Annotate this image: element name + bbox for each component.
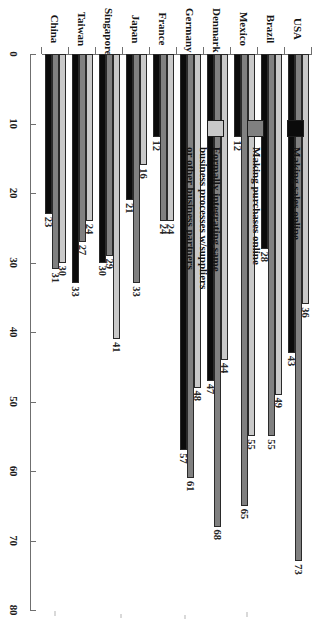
bar-japan-series-0 <box>126 54 133 200</box>
category-axis-tick <box>122 47 123 54</box>
legend-entry-0: Making sales online <box>287 120 304 240</box>
bar-singapore-series-2 <box>113 54 120 339</box>
bar-value-label: 30 <box>97 266 108 277</box>
category-label-mexico: Mexico <box>239 8 251 50</box>
value-axis-tick <box>30 124 36 125</box>
value-axis-tick <box>30 54 36 55</box>
legend-label: Making purchases online <box>250 147 264 265</box>
value-axis-tick <box>30 471 36 472</box>
bar-value-label: 61 <box>185 481 196 492</box>
bar-brazil-series-2 <box>275 54 282 395</box>
value-axis-tick-label: 10 <box>8 118 20 129</box>
value-axis-tick-label: 0 <box>8 51 20 56</box>
scan-speckle <box>246 612 248 617</box>
category-axis-tick <box>230 47 231 54</box>
bar-china-series-2 <box>59 54 66 263</box>
bar-france-series-0 <box>153 54 160 137</box>
bar-value-label: 43 <box>286 356 297 367</box>
bar-value-label: 31 <box>50 272 61 283</box>
scan-speckle <box>120 614 122 618</box>
bar-china-series-0 <box>45 54 52 214</box>
category-label-denmark: Denmark <box>212 8 224 50</box>
value-axis-tick <box>30 193 36 194</box>
value-axis-tick-label: 60 <box>8 466 20 477</box>
bar-value-label: 12 <box>232 140 243 151</box>
bar-japan-series-2 <box>140 54 147 165</box>
light-gray-swatch <box>207 120 224 137</box>
legend-entry-2: Formally integrating same business proce… <box>184 120 224 289</box>
bar-value-label: 33 <box>131 286 142 297</box>
bar-value-label: 68 <box>212 530 223 541</box>
value-axis-tick <box>30 402 36 403</box>
bar-chart-figure: Percent using Internet 01020304050607080… <box>0 0 318 636</box>
value-axis-tick-label: 40 <box>8 327 20 338</box>
value-axis-tick <box>30 610 36 611</box>
bar-value-label: 12 <box>151 140 162 151</box>
category-axis-tick <box>176 47 177 54</box>
category-label-usa: USA <box>293 8 305 50</box>
value-axis-tick <box>30 263 36 264</box>
scan-speckle <box>184 615 186 619</box>
bar-france-series-1 <box>160 54 167 221</box>
bar-value-label: 24 <box>158 224 169 235</box>
category-label-france: France <box>158 8 170 50</box>
category-axis-tick <box>41 47 42 54</box>
legend-label: Formally integrating same business proce… <box>184 147 224 289</box>
rotated-figure-frame: Percent using Internet 01020304050607080… <box>0 0 318 636</box>
legend-label: Making sales online <box>290 147 304 240</box>
bar-singapore-series-1 <box>106 54 113 256</box>
bar-taiwan-series-1 <box>79 54 86 242</box>
bar-value-label: 73 <box>293 564 304 575</box>
category-axis-tick <box>257 47 258 54</box>
plot-area: Percent using Internet 01020304050607080… <box>42 54 312 610</box>
value-axis-tick-label: 30 <box>8 257 20 268</box>
category-label-taiwan: Taiwan <box>77 8 89 50</box>
category-label-singapore: Singapore <box>104 8 116 50</box>
value-axis-tick-label: 80 <box>8 605 20 616</box>
value-axis-tick-label: 50 <box>8 396 20 407</box>
bar-china-series-1 <box>52 54 59 269</box>
value-axis-tick-label: 20 <box>8 188 20 199</box>
bar-value-label: 33 <box>70 286 81 297</box>
category-axis-tick <box>311 47 312 54</box>
value-axis-tick <box>30 332 36 333</box>
bar-singapore-series-0 <box>99 54 106 263</box>
bar-france-series-2 <box>167 54 174 221</box>
category-label-germany: Germany <box>185 8 197 50</box>
bar-value-label: 21 <box>124 203 135 214</box>
bar-mexico-series-0 <box>234 54 241 137</box>
value-axis-tick <box>30 541 36 542</box>
bar-value-label: 23 <box>43 217 54 228</box>
dark-gray-swatch <box>247 120 264 137</box>
category-label-brazil: Brazil <box>266 8 278 50</box>
category-label-japan: Japan <box>131 8 143 50</box>
black-swatch <box>287 120 304 137</box>
bar-value-label: 41 <box>111 342 122 353</box>
bar-japan-series-1 <box>133 54 140 283</box>
category-axis-tick <box>284 47 285 54</box>
category-axis-tick <box>203 47 204 54</box>
legend-entry-1: Making purchases online <box>247 120 264 265</box>
category-axis-tick <box>95 47 96 54</box>
bar-taiwan-series-0 <box>72 54 79 283</box>
category-label-china: China <box>50 8 62 50</box>
bar-brazil-series-1 <box>268 54 275 436</box>
category-axis-tick <box>68 47 69 54</box>
bar-value-label: 55 <box>266 439 277 450</box>
scan-speckle <box>54 611 56 616</box>
bar-value-label: 47 <box>205 384 216 395</box>
bar-value-label: 65 <box>239 509 250 520</box>
bar-taiwan-series-2 <box>86 54 93 221</box>
value-axis-tick-label: 70 <box>8 535 20 546</box>
category-axis-tick <box>149 47 150 54</box>
bar-value-label: 57 <box>178 453 189 464</box>
